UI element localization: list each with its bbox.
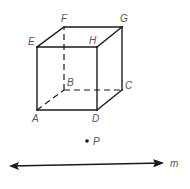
cube-diagram: A B C D E F G H P m: [0, 0, 190, 189]
label-P: P: [93, 136, 100, 147]
label-m: m: [170, 158, 178, 169]
label-B: B: [67, 77, 74, 88]
edge-HG: [97, 27, 122, 47]
edge-FE: [37, 27, 64, 47]
hidden-edges: [37, 27, 122, 110]
edge-DC: [97, 90, 122, 110]
label-G: G: [120, 13, 128, 24]
label-E: E: [28, 36, 35, 47]
visible-edges: [37, 27, 122, 110]
label-D: D: [92, 113, 99, 124]
vertex-labels: A B C D E F G H: [28, 13, 133, 124]
label-A: A: [31, 113, 39, 124]
line-m: [11, 163, 162, 166]
edge-AB: [37, 90, 64, 110]
label-F: F: [61, 13, 68, 24]
label-H: H: [89, 35, 97, 46]
point-P: [85, 139, 89, 143]
label-C: C: [125, 80, 133, 91]
